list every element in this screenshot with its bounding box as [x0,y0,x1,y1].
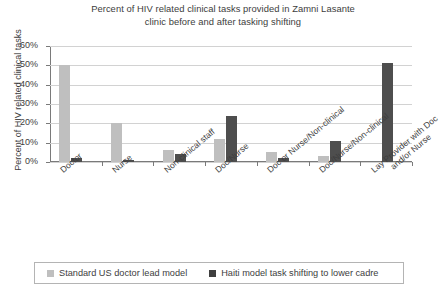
bar-group [50,46,102,162]
y-axis-tick-label: 20% [4,117,38,127]
x-axis-tick-mark [309,162,310,166]
x-axis-tick-mark [153,162,154,166]
y-axis-tick-label: 10% [4,137,38,147]
x-axis-tick-mark [412,162,413,166]
bar [111,123,122,162]
chart-legend: Standard US doctor lead modelHaiti model… [34,262,404,284]
bar [59,65,70,162]
chart-title-line-2: clinic before and after tasking shifting [145,16,301,27]
chart-title: Percent of HIV related clinical tasks pr… [58,3,388,28]
legend-label: Standard US doctor lead model [59,268,187,278]
y-axis-tick-label: 60% [4,40,38,50]
bar-group [205,46,257,162]
y-axis-tick-label: 30% [4,98,38,108]
x-axis-tick-mark [360,162,361,166]
legend-swatch [47,270,54,277]
bar-group [102,46,154,162]
legend-entry: Standard US doctor lead model [47,268,187,278]
y-axis-tick-label: 40% [4,79,38,89]
legend-entry: Haiti model task shifting to lower cadre [209,268,378,278]
x-axis-tick-mark [102,162,103,166]
legend-swatch [209,270,216,277]
x-axis-tick-mark [205,162,206,166]
x-axis-tick-mark [257,162,258,166]
chart-title-line-1: Percent of HIV related clinical tasks pr… [91,3,355,14]
y-axis-tick-mark [46,162,50,163]
legend-label: Haiti model task shifting to lower cadre [221,268,378,278]
y-axis-tick-label: 0% [4,156,38,166]
y-axis-tick-label: 50% [4,59,38,69]
